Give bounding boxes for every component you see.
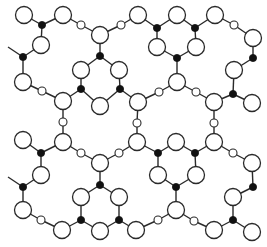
small-open-circle-icon [154, 216, 162, 224]
large-open-circle-icon [92, 27, 109, 44]
large-open-circle-icon [73, 189, 90, 206]
large-open-circle-icon [16, 7, 33, 24]
large-open-circle-icon [206, 222, 223, 239]
large-open-circle-icon [130, 7, 147, 24]
large-open-circle-icon [55, 134, 72, 151]
large-open-circle-icon [92, 98, 109, 115]
filled-dot-icon [38, 21, 45, 28]
large-open-circle-icon [92, 223, 109, 240]
filled-dot-icon [96, 52, 103, 59]
large-open-circle-icon [150, 167, 167, 184]
filled-dot-icon [96, 181, 103, 188]
atom-layer [15, 7, 262, 241]
large-open-circle-icon [206, 134, 223, 151]
large-open-circle-icon [169, 7, 186, 24]
large-open-circle-icon [206, 94, 223, 111]
large-open-circle-icon [15, 132, 32, 149]
filled-dot-icon [229, 216, 236, 223]
large-open-circle-icon [92, 155, 109, 172]
large-open-circle-icon [111, 189, 128, 206]
filled-dot-icon [19, 53, 26, 60]
lattice-diagram [0, 0, 267, 247]
large-open-circle-icon [188, 167, 205, 184]
large-open-circle-icon [244, 224, 261, 241]
large-open-circle-icon [54, 222, 71, 239]
large-open-circle-icon [33, 167, 50, 184]
small-open-circle-icon [230, 21, 238, 29]
large-open-circle-icon [33, 37, 50, 54]
small-open-circle-icon [37, 216, 45, 224]
large-open-circle-icon [149, 39, 166, 56]
large-open-circle-icon [207, 7, 224, 24]
large-open-circle-icon [128, 222, 145, 239]
large-open-circle-icon [225, 189, 242, 206]
small-open-circle-icon [229, 149, 237, 157]
large-open-circle-icon [15, 74, 32, 91]
large-open-circle-icon [130, 94, 147, 111]
filled-dot-icon [249, 183, 256, 190]
large-open-circle-icon [168, 202, 185, 219]
small-open-circle-icon [117, 21, 125, 29]
filled-dot-icon [37, 149, 44, 156]
large-open-circle-icon [73, 62, 90, 79]
large-open-circle-icon [188, 39, 205, 56]
small-open-circle-icon [190, 217, 198, 225]
filled-dot-icon [19, 183, 26, 190]
filled-dot-icon [77, 85, 84, 92]
large-open-circle-icon [244, 155, 261, 172]
small-open-circle-icon [77, 21, 85, 29]
filled-dot-icon [229, 90, 236, 97]
large-open-circle-icon [55, 7, 72, 24]
large-open-circle-icon [55, 93, 72, 110]
large-open-circle-icon [245, 30, 262, 47]
filled-dot-icon [77, 216, 84, 223]
filled-dot-icon [172, 183, 179, 190]
filled-dot-icon [153, 24, 160, 31]
small-open-circle-icon [38, 87, 46, 95]
large-open-circle-icon [169, 74, 186, 91]
filled-dot-icon [249, 54, 256, 61]
small-open-circle-icon [115, 149, 123, 157]
filled-dot-icon [191, 149, 198, 156]
large-open-circle-icon [111, 62, 128, 79]
filled-dot-icon [154, 149, 161, 156]
small-open-circle-icon [77, 149, 85, 157]
large-open-circle-icon [244, 95, 261, 112]
small-open-circle-icon [155, 88, 163, 96]
large-open-circle-icon [168, 134, 185, 151]
small-open-circle-icon [192, 88, 200, 96]
small-open-circle-icon [133, 119, 141, 127]
filled-dot-icon [173, 54, 180, 61]
filled-dot-icon [115, 216, 122, 223]
small-open-circle-icon [59, 118, 67, 126]
small-open-circle-icon [210, 119, 218, 127]
large-open-circle-icon [129, 134, 146, 151]
large-open-circle-icon [15, 202, 32, 219]
filled-dot-icon [116, 85, 123, 92]
large-open-circle-icon [226, 62, 243, 79]
filled-dot-icon [191, 24, 198, 31]
